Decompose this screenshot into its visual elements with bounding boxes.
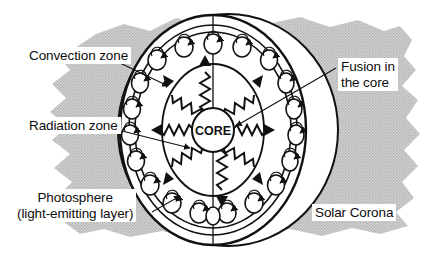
label-solar-corona: Solar Corona [312, 204, 396, 221]
label-fusion-line2: the core [341, 75, 395, 91]
label-radiation-zone: Radiation zone [26, 117, 121, 134]
label-fusion-in-the-core: Fusion in the core [338, 58, 398, 91]
label-convection-zone: Convection zone [26, 47, 131, 64]
label-photosphere-line2: (light-emitting layer) [17, 206, 133, 222]
label-photosphere-line1: Photosphere [17, 190, 133, 206]
diagram-canvas: CORE Convection zone Radiation zone Phot… [0, 0, 426, 265]
core-label: CORE [195, 124, 231, 138]
sun-body: CORE [118, 14, 338, 246]
label-photosphere: Photosphere (light-emitting layer) [14, 189, 136, 222]
convection-cell [206, 207, 220, 225]
label-fusion-line1: Fusion in [341, 59, 395, 75]
